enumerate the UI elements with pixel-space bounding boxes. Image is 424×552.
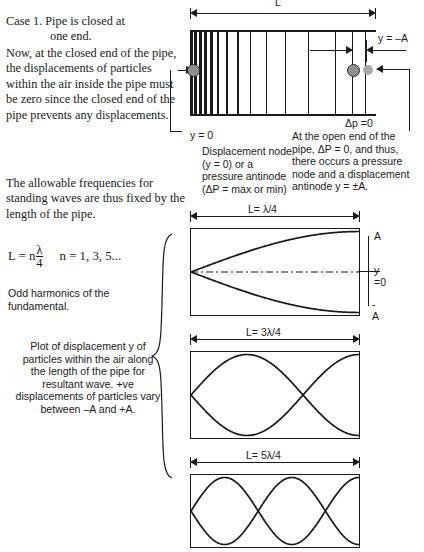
open-end-callout-vertical [409,69,410,131]
open-end-particle-displaced-dot [363,65,373,75]
dimension-tick-right [359,211,360,222]
wavelength-formula: L = nλ4n = 1, 3, 5... [8,244,121,270]
air-layer-line [210,30,213,116]
paragraph-allowable-frequencies: The allowable frequencies for standing w… [6,176,186,222]
air-layer-line [285,30,286,116]
case-title: Case 1. Pipe is closed at one end. [6,14,186,44]
amplitude-bracket-line [368,50,406,51]
formula-numerator: λ [36,244,42,256]
pipe-length-label: L [272,0,284,8]
air-layer-line [335,30,336,116]
wave-3-box [190,474,360,548]
dimension-tick-right [359,334,360,345]
wave-1-box [190,228,360,316]
formula-denominator: 4 [36,256,42,270]
note-closed-end: Displacement node (y = 0) or a pressure … [202,145,294,195]
wave-3-curves [191,475,359,547]
arrowhead-left-icon [190,212,197,220]
air-layer-line [266,30,267,116]
dimension-bar [196,13,370,14]
wave-1-curves [191,229,359,315]
pipe-length-dimension [190,8,376,19]
dimension-tick-right [359,457,360,468]
dimension-tick-right [375,8,376,19]
arrowhead-left-icon [190,335,197,343]
note-open-end: At the open end of the pipe, ΔP = 0, and… [292,130,418,193]
closed-end-callout-line [170,131,182,132]
air-layer-line [204,30,207,116]
odd-harmonics-note: Odd harmonics of the fundamental. [8,287,158,312]
air-layer-line [250,30,251,116]
formula-lhs: L = n [8,249,35,263]
air-layer-line [308,30,309,116]
axis-extension-dash [358,271,380,272]
wave-1-length-label: L= λ/4 [245,203,280,215]
open-end-callout-line [382,69,410,70]
dimension-bar [196,216,354,217]
grouping-brace-icon [150,232,176,480]
pressure-change-label: Δp =0 [345,117,373,129]
amplitude-label-bottom: -A [372,298,379,322]
air-layer-line [217,30,219,116]
wave-2-box [190,351,360,439]
amplitude-bracket-arrowhead-icon [366,46,373,54]
air-layer-line [226,30,228,116]
paragraph-closed-end: Now, at the closed end of the pipe, the … [6,46,186,123]
closed-end-particle-dot [187,64,200,77]
node-label: y = 0 [190,129,213,141]
wave-3-length-label: L= 5λ/4 [243,449,284,461]
amplitude-label-top: A [374,230,381,242]
arrowhead-left-icon [190,458,197,466]
arrowhead-left-icon [190,9,197,17]
air-layer-line [237,30,239,116]
formula-fraction: λ4 [36,244,42,270]
displacement-amplitude-label: y = –A [378,32,408,44]
case-title-continuation: one end. [6,29,186,44]
dimension-tick-left [190,457,191,468]
wave-2-curves [191,352,359,438]
dimension-tick-left [190,8,191,19]
amplitude-label-middle: y =0 [374,264,386,288]
open-end-particle-origin-dot [347,64,360,77]
case-title-main: Case 1. Pipe is closed at [6,14,125,28]
dimension-tick-left [190,334,191,345]
plot-description-note: Plot of displacement y of particles with… [14,340,162,416]
dimension-bar [196,339,354,340]
dimension-bar [196,462,354,463]
formula-n-values: n = 1, 3, 5... [60,249,122,263]
wave-2-length-label: L= 3λ/4 [243,326,284,338]
dimension-tick-left [190,211,191,222]
closed-end-callout-vertical [170,70,171,132]
